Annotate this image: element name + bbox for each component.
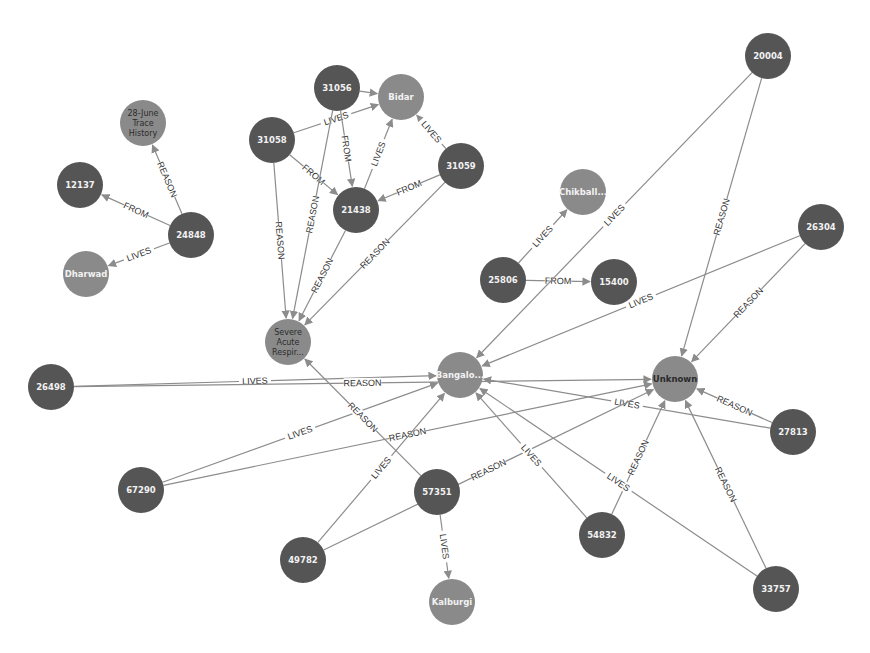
edge-31059-bidar[interactable]: LIVES [417, 115, 446, 149]
edge-label: LIVES [419, 119, 443, 145]
node-15400[interactable]: 15400 [591, 259, 637, 305]
node-label: 26304 [806, 222, 836, 232]
node-label: 25806 [488, 275, 518, 285]
node-27813[interactable]: 27813 [770, 409, 816, 455]
node-67290[interactable]: 67290 [118, 467, 164, 513]
edge-21438-bidar[interactable]: LIVES [365, 119, 393, 188]
node-label: Bidar [388, 92, 414, 102]
node-label: 24848 [176, 230, 206, 240]
node-label: 15400 [599, 277, 629, 287]
edge-26498-unknown[interactable]: REASON [74, 378, 651, 388]
edge-57351-kalburgi[interactable]: LIVES [437, 515, 451, 578]
node-label: 67290 [126, 485, 156, 495]
node-label: 49782 [288, 555, 318, 565]
edge-label: LIVES [530, 224, 555, 250]
edge-label: LIVES [322, 110, 349, 128]
edge-label: FROM [545, 276, 572, 286]
node-label: Chikball... [559, 187, 607, 197]
edge-67290-unknown[interactable]: REASON [164, 384, 652, 485]
edge-label: REASON [273, 221, 286, 260]
edge-20004-bangalore[interactable]: LIVES [477, 73, 752, 358]
edge-label: LIVES [602, 202, 627, 227]
node-31059[interactable]: 31059 [438, 143, 484, 189]
edge-20004-unknown[interactable]: REASON [682, 78, 762, 356]
edge-label: REASON [713, 465, 738, 504]
node-label: 31056 [322, 83, 352, 93]
edge-54832-unknown[interactable]: REASON [612, 401, 665, 514]
edge-label: LIVES [438, 533, 451, 560]
edge-24848-12137[interactable]: FROM [102, 195, 170, 226]
edge-25806-chikball[interactable]: LIVES [518, 210, 566, 263]
edge-54832-bangalore[interactable]: LIVES [476, 393, 587, 518]
edge-label: FROM [300, 162, 327, 187]
edge-label: FROM [395, 178, 423, 197]
node-label: Kalburgi [432, 597, 473, 607]
edge-label: REASON [626, 438, 651, 477]
nodes-layer: 28-JuneTraceHistory1213724848Dharwad3105… [28, 33, 844, 625]
edge-label: LIVES [519, 443, 543, 469]
node-label: Trace [131, 119, 153, 128]
node-54832[interactable]: 54832 [579, 512, 625, 558]
edge-24848-28june[interactable]: REASON [152, 145, 181, 214]
graph-canvas[interactable]: REASONFROMLIVESLIVESFROMFROMLIVESLIVESFR… [0, 0, 870, 653]
node-label: History [129, 129, 158, 138]
node-label: 12137 [65, 180, 95, 190]
node-label: 21438 [341, 205, 371, 215]
node-20004[interactable]: 20004 [745, 33, 791, 79]
edge-label: FROM [122, 200, 150, 220]
edge-label: REASON [469, 457, 508, 483]
edge-label: LIVES [125, 245, 152, 263]
edge-31056-bidar[interactable] [360, 91, 377, 93]
node-kalburgi[interactable]: Kalburgi [429, 579, 475, 625]
node-unknown[interactable]: Unknown [652, 356, 698, 402]
edge-label: REASON [358, 237, 392, 271]
node-label: 31059 [446, 161, 476, 171]
edge-line [360, 91, 377, 93]
edge-label: REASON [732, 285, 766, 319]
edge-label: REASON [388, 426, 427, 444]
edge-label: LIVES [286, 424, 313, 442]
node-label: 54832 [587, 530, 617, 540]
node-57351[interactable]: 57351 [414, 469, 460, 515]
node-label: Unknown [653, 374, 697, 384]
node-label: 26498 [36, 382, 66, 392]
node-26304[interactable]: 26304 [798, 204, 844, 250]
node-label: 28-June [128, 109, 159, 118]
edge-label: REASON [155, 160, 179, 199]
edge-label: FROM [339, 135, 353, 163]
node-24848[interactable]: 24848 [168, 212, 214, 258]
node-28june[interactable]: 28-JuneTraceHistory [120, 100, 166, 146]
node-dharwad[interactable]: Dharwad [63, 251, 109, 297]
node-label: 33757 [761, 584, 791, 594]
node-label: 31058 [257, 135, 287, 145]
node-31056[interactable]: 31056 [314, 65, 360, 111]
node-12137[interactable]: 12137 [57, 162, 103, 208]
edge-label: REASON [304, 195, 321, 234]
node-label: Severe [274, 328, 302, 337]
edge-25806-15400[interactable]: FROM [526, 276, 590, 286]
edge-24848-dharwad[interactable]: LIVES [108, 243, 169, 266]
node-49782[interactable]: 49782 [280, 537, 326, 583]
edge-label: REASON [712, 197, 732, 236]
node-25806[interactable]: 25806 [480, 257, 526, 303]
node-bidar[interactable]: Bidar [378, 74, 424, 120]
edge-label: LIVES [369, 140, 388, 167]
edge-49782-bangalore[interactable]: LIVES [318, 393, 445, 542]
node-label: Respir... [272, 348, 304, 357]
node-26498[interactable]: 26498 [28, 364, 74, 410]
node-21438[interactable]: 21438 [333, 187, 379, 233]
node-label: 27813 [778, 427, 808, 437]
edge-31058-severe[interactable]: REASON [273, 163, 286, 318]
node-chikball[interactable]: Chikball... [559, 169, 607, 215]
node-label: Acute [277, 338, 300, 347]
node-33757[interactable]: 33757 [753, 566, 799, 612]
node-31058[interactable]: 31058 [249, 117, 295, 163]
node-label: 57351 [422, 487, 452, 497]
node-severe[interactable]: SevereAcuteRespir... [265, 319, 311, 365]
edge-label: REASON [715, 393, 754, 418]
node-bangalore[interactable]: Bangalo... [436, 352, 485, 398]
edge-label: LIVES [614, 397, 641, 411]
node-label: Bangalo... [436, 370, 485, 380]
edge-label: LIVES [369, 455, 393, 481]
edge-31058-21438[interactable]: FROM [290, 155, 338, 195]
